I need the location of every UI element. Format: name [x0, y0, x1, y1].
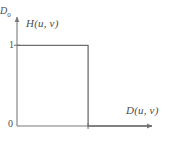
x-axis-label: D(u, v): [126, 104, 159, 116]
y-tick-label-one: 1: [9, 39, 14, 50]
y-axis-label: H(u, v): [26, 17, 59, 29]
ideal-lowpass-filter-figure: H(u, v) D(u, v) 1 0 D0: [0, 0, 181, 150]
origin-label: 0: [8, 118, 13, 129]
